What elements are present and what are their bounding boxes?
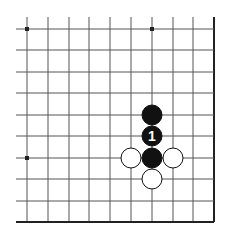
black-stone-icon (142, 105, 162, 125)
star-point (25, 156, 29, 160)
go-board-diagram: 1 (0, 0, 230, 238)
star-point (150, 27, 154, 31)
white-stone-icon (142, 169, 162, 189)
white-stone (121, 148, 141, 168)
white-stone-icon (163, 148, 183, 168)
move-number-label: 1 (148, 128, 156, 144)
black-stone (142, 148, 162, 168)
black-stone: 1 (142, 126, 162, 146)
black-stone-icon (142, 148, 162, 168)
white-stone-icon (121, 148, 141, 168)
board-grid (16, 17, 214, 222)
white-stone (142, 169, 162, 189)
star-point (25, 27, 29, 31)
black-stone (142, 105, 162, 125)
white-stone (163, 148, 183, 168)
